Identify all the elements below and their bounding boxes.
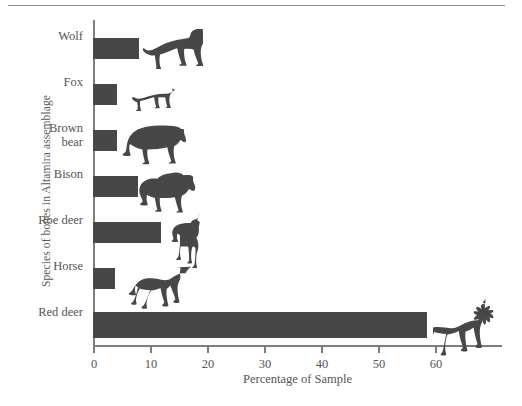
x-tick-label-60: 60 — [416, 357, 456, 372]
x-tick-label-0: 0 — [74, 357, 114, 372]
bar-horse[interactable] — [93, 268, 115, 289]
category-label-bison: Bison — [0, 167, 83, 181]
category-label-brown-bear: Brown bear — [0, 121, 83, 149]
category-label-horse: Horse — [0, 259, 83, 273]
x-tick-label-10: 10 — [131, 357, 171, 372]
category-label-roe-deer: Roe deer — [0, 213, 83, 227]
x-tick-10 — [150, 345, 152, 353]
fox-silhouette-icon — [125, 87, 177, 113]
bar-fox[interactable] — [93, 84, 117, 105]
x-tick-50 — [378, 345, 380, 353]
x-axis-title: Percentage of Sample — [93, 372, 502, 387]
bar-roe-deer[interactable] — [93, 222, 161, 243]
x-tick-60 — [435, 345, 437, 353]
x-tick-label-30: 30 — [245, 357, 285, 372]
x-tick-label-50: 50 — [359, 357, 399, 372]
red-deer-silhouette-icon — [433, 297, 505, 357]
bar-bison[interactable] — [93, 176, 138, 197]
category-label-red-deer: Red deer — [0, 305, 83, 319]
category-label-fox: Fox — [0, 75, 83, 89]
category-label-wolf: Wolf — [0, 29, 83, 43]
y-axis-title: Species of bones in Altamira assemblage — [40, 66, 52, 316]
x-tick-0 — [93, 345, 95, 353]
bar-brown-bear[interactable] — [93, 130, 117, 151]
horse-silhouette-icon — [123, 265, 201, 317]
bar-red-deer[interactable] — [93, 312, 427, 338]
figure-container: Species of bones in Altamira assemblage … — [0, 0, 522, 406]
brown-bear-silhouette-icon — [121, 121, 187, 167]
top-divider-rule — [8, 5, 505, 6]
x-tick-label-40: 40 — [302, 357, 342, 372]
x-tick-20 — [207, 345, 209, 353]
wolf-silhouette-icon — [141, 29, 203, 69]
roe-deer-silhouette-icon — [166, 212, 214, 268]
plot-area: Wolf Fox Brown bear — [93, 20, 502, 345]
x-tick-label-20: 20 — [188, 357, 228, 372]
x-tick-30 — [264, 345, 266, 353]
bar-wolf[interactable] — [93, 38, 139, 59]
x-tick-40 — [321, 345, 323, 353]
